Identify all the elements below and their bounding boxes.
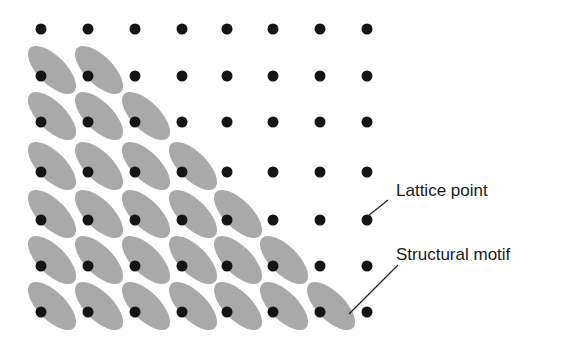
motif-ellipse xyxy=(161,274,225,338)
motif-ellipse xyxy=(67,182,131,246)
lattice-point xyxy=(268,307,279,318)
lattice-point xyxy=(315,167,326,178)
lattice-point xyxy=(362,117,373,128)
motif-ellipse xyxy=(252,228,316,292)
motif-ellipse xyxy=(206,182,270,246)
motif-ellipse xyxy=(114,274,178,338)
lattice-point xyxy=(268,117,279,128)
motif-ellipse xyxy=(67,84,131,148)
motif-ellipse xyxy=(299,274,363,338)
lattice-point xyxy=(36,71,47,82)
lattice-point xyxy=(130,24,141,35)
lattice-point xyxy=(362,71,373,82)
motif-ellipse xyxy=(252,274,316,338)
lattice-point xyxy=(315,215,326,226)
motif-ellipse xyxy=(67,274,131,338)
lattice-point xyxy=(36,307,47,318)
leader-lines xyxy=(349,200,398,314)
lattice-point xyxy=(315,261,326,272)
lattice-point xyxy=(130,117,141,128)
lattice-point xyxy=(130,307,141,318)
lattice-point xyxy=(83,307,94,318)
leader-line xyxy=(349,265,398,314)
lattice-point xyxy=(315,24,326,35)
motif-ellipse xyxy=(206,228,270,292)
motif-ellipse xyxy=(20,38,84,102)
leader-line xyxy=(368,200,388,216)
motif-ellipse xyxy=(20,134,84,198)
lattice-point xyxy=(177,117,188,128)
motif-ellipse xyxy=(67,38,131,102)
lattice-point xyxy=(177,24,188,35)
lattice-point xyxy=(362,261,373,272)
lattice-point xyxy=(130,215,141,226)
lattice-point xyxy=(222,261,233,272)
lattice-point xyxy=(222,215,233,226)
lattice-point xyxy=(222,167,233,178)
lattice-point xyxy=(268,215,279,226)
lattice-point xyxy=(83,167,94,178)
lattice-point xyxy=(222,24,233,35)
lattice-point xyxy=(36,261,47,272)
lattice-point xyxy=(362,307,373,318)
lattice-point xyxy=(36,24,47,35)
motif-ellipse xyxy=(67,134,131,198)
motif-ellipse xyxy=(20,228,84,292)
motif-ellipse xyxy=(20,274,84,338)
motif-ellipse xyxy=(161,182,225,246)
motif-ellipse xyxy=(161,134,225,198)
motif-ellipse xyxy=(114,182,178,246)
lattice-point xyxy=(268,261,279,272)
structural-motifs xyxy=(20,38,363,338)
motif-ellipse xyxy=(20,84,84,148)
lattice-point xyxy=(268,71,279,82)
lattice-point xyxy=(222,117,233,128)
motif-ellipse xyxy=(114,134,178,198)
lattice-point xyxy=(268,24,279,35)
lattice-point xyxy=(83,215,94,226)
lattice-point-label: Lattice point xyxy=(396,181,488,201)
lattice-point xyxy=(130,71,141,82)
lattice-point xyxy=(268,167,279,178)
lattice-point xyxy=(36,215,47,226)
motif-ellipse xyxy=(114,228,178,292)
lattice-point xyxy=(177,71,188,82)
motif-ellipse xyxy=(67,228,131,292)
lattice-point xyxy=(362,24,373,35)
lattice-point xyxy=(177,167,188,178)
lattice-point xyxy=(315,307,326,318)
lattice-point xyxy=(177,261,188,272)
lattice-diagram xyxy=(0,0,574,347)
lattice-point xyxy=(315,117,326,128)
lattice-point xyxy=(83,71,94,82)
lattice-point xyxy=(83,24,94,35)
lattice-point xyxy=(130,261,141,272)
lattice-point xyxy=(315,71,326,82)
lattice-point xyxy=(36,117,47,128)
lattice-point xyxy=(222,71,233,82)
lattice-point xyxy=(222,307,233,318)
motif-ellipse xyxy=(20,182,84,246)
motif-ellipse xyxy=(114,84,178,148)
lattice-point xyxy=(83,261,94,272)
lattice-point xyxy=(177,307,188,318)
lattice-point xyxy=(362,167,373,178)
motif-ellipse xyxy=(206,274,270,338)
motif-ellipse xyxy=(161,228,225,292)
lattice-point xyxy=(362,215,373,226)
lattice-point xyxy=(130,167,141,178)
lattice-point xyxy=(177,215,188,226)
structural-motif-label: Structural motif xyxy=(396,245,510,265)
lattice-point xyxy=(83,117,94,128)
lattice-point xyxy=(36,167,47,178)
